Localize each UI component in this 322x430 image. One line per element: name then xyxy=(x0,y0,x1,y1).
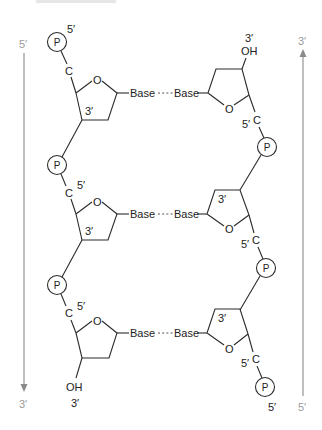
carbon-label: C xyxy=(252,234,260,246)
hydroxyl-label: OH xyxy=(66,381,83,393)
left-nucleotide-2: P C 5′ O 3′ Base xyxy=(48,156,156,278)
five-prime-label: 5′ xyxy=(242,118,250,130)
right-arrow-bottom-label: 5′ xyxy=(298,401,306,413)
three-prime-label: 3′ xyxy=(218,312,226,324)
carbon-label: C xyxy=(65,187,73,199)
phosphate-label: P xyxy=(54,280,61,291)
five-prime-end-label: 5′ xyxy=(268,401,276,413)
ring-oxygen-label: O xyxy=(225,343,234,355)
right-strand-direction-arrow: 3′ 5′ xyxy=(298,35,307,413)
carbon-label: C xyxy=(253,114,261,126)
three-prime-label: 3′ xyxy=(85,225,93,237)
phosphate-label: P xyxy=(264,142,271,153)
carbon-label: C xyxy=(252,353,260,365)
cropped-heading-fragment xyxy=(36,0,116,3)
left-arrow-top-label: 5′ xyxy=(19,38,27,50)
base-label: Base xyxy=(130,327,155,339)
five-prime-label: 5′ xyxy=(241,357,249,369)
five-prime-label: 5′ xyxy=(241,238,249,250)
base-label: Base xyxy=(174,87,199,99)
three-prime-end-label: 3′ xyxy=(245,32,253,44)
phosphate-label: P xyxy=(262,382,269,393)
arrow-down-icon xyxy=(21,384,28,392)
five-prime-label: 5′ xyxy=(67,23,75,35)
ring-oxygen-label: O xyxy=(93,74,102,86)
dna-structure-diagram: 5′ 3′ 3′ 5′ P 5′ C O 3′ Base P C 5′ O xyxy=(0,0,322,430)
ring-oxygen-label: O xyxy=(225,103,234,115)
three-prime-label: 3′ xyxy=(85,105,93,117)
base-label: Base xyxy=(130,208,155,220)
left-strand-direction-arrow: 5′ 3′ xyxy=(19,38,28,410)
ring-oxygen-label: O xyxy=(93,196,102,208)
ring-oxygen-label: O xyxy=(225,223,234,235)
three-prime-end-label: 3′ xyxy=(71,397,79,409)
left-nucleotide-3: P C 5′ O Base OH 3′ xyxy=(48,276,156,410)
base-label: Base xyxy=(174,327,199,339)
three-prime-label: 3′ xyxy=(218,193,226,205)
carbon-label: C xyxy=(65,307,73,319)
right-nucleotide-3: Base O 3′ 5′ C P 5′ xyxy=(174,309,276,413)
phosphate-label: P xyxy=(54,37,61,48)
base-label: Base xyxy=(130,87,155,99)
left-nucleotide-1: P 5′ C O 3′ Base xyxy=(48,23,156,157)
carbon-label: C xyxy=(65,65,73,77)
base-label: Base xyxy=(174,208,199,220)
right-nucleotide-2: Base O 3′ 5′ C P xyxy=(174,190,276,310)
left-arrow-bottom-label: 3′ xyxy=(19,398,27,410)
right-arrow-top-label: 3′ xyxy=(298,35,306,47)
ring-oxygen-label: O xyxy=(93,315,102,327)
five-prime-label: 5′ xyxy=(77,300,85,312)
right-nucleotide-1: 3′ OH Base O 5′ C P xyxy=(174,32,277,190)
phosphate-label: P xyxy=(263,263,270,274)
hydroxyl-label: OH xyxy=(241,45,258,57)
phosphate-label: P xyxy=(54,160,61,171)
five-prime-label: 5′ xyxy=(77,179,85,191)
